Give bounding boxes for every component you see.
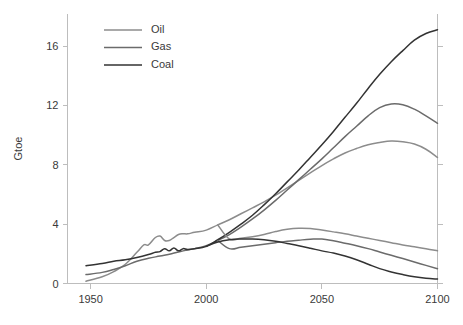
y-tick-label: 12 <box>46 99 58 111</box>
legend-label-gas: Gas <box>151 40 172 52</box>
x-tick-label: 2100 <box>425 293 449 305</box>
legend-label-coal: Coal <box>151 58 174 70</box>
x-tick-label: 1950 <box>78 293 102 305</box>
series-line-oil-low <box>218 225 438 251</box>
chart-legend: OilGasCoal <box>104 23 174 70</box>
line-chart: 0481216 1950200020502100 Gtoe OilGasCoal <box>0 0 463 325</box>
legend-label-oil: Oil <box>151 23 164 35</box>
y-axis-title: Gtoe <box>12 137 24 161</box>
x-tick-label: 2050 <box>310 293 334 305</box>
y-tick-label: 4 <box>52 218 58 230</box>
y-tick-label: 8 <box>52 159 58 171</box>
chart-container: 0481216 1950200020502100 Gtoe OilGasCoal <box>0 0 463 325</box>
series-line-gas-low <box>218 239 438 269</box>
series-lines <box>86 30 438 281</box>
series-line-gas-high <box>86 104 438 275</box>
plot-border <box>68 14 438 284</box>
plot-frame <box>68 14 438 284</box>
y-tick-label: 16 <box>46 40 58 52</box>
x-axis-ticks: 1950200020502100 <box>78 284 449 305</box>
y-axis-ticks: 0481216 <box>46 40 442 289</box>
y-tick-label: 0 <box>52 278 58 290</box>
x-tick-label: 2000 <box>194 293 218 305</box>
